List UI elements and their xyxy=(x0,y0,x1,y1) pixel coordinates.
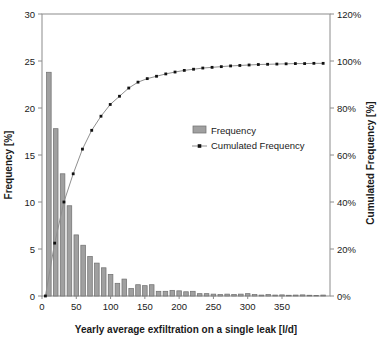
cumulated-frequency-line xyxy=(45,63,323,296)
frequency-bar xyxy=(53,129,58,296)
frequency-bar xyxy=(293,295,298,296)
frequency-bar xyxy=(252,295,257,296)
frequency-bar xyxy=(156,291,161,296)
frequency-bar xyxy=(170,290,175,296)
frequency-bar xyxy=(232,295,237,296)
y-left-tick-label: 15 xyxy=(24,150,35,161)
cumulated-frequency-curve xyxy=(44,62,325,297)
cumulated-frequency-point xyxy=(220,65,223,68)
cumulated-frequency-point xyxy=(192,68,195,71)
cumulated-frequency-point xyxy=(211,66,214,69)
x-tick-label: 50 xyxy=(71,301,82,312)
frequency-bar xyxy=(218,295,223,296)
frequency-bar xyxy=(259,295,264,296)
y-right-tick-label: 60% xyxy=(337,150,357,161)
frequency-bar xyxy=(149,285,154,296)
cumulated-frequency-point xyxy=(238,64,241,67)
cumulated-frequency-point xyxy=(155,75,158,78)
cumulated-frequency-point xyxy=(81,148,84,151)
x-tick-label: 150 xyxy=(137,301,153,312)
frequency-bar xyxy=(74,235,79,296)
y-axis-title-right: Cumulated Frequency [%] xyxy=(365,101,376,224)
frequency-bar xyxy=(280,295,285,296)
cumulated-frequency-point xyxy=(137,81,140,84)
y-left-tick-label: 20 xyxy=(24,103,35,114)
legend-frequency-swatch-icon xyxy=(193,126,206,133)
legend-cumulated-marker-icon xyxy=(198,144,202,148)
cumulated-frequency-point xyxy=(266,63,269,66)
cumulated-frequency-point xyxy=(183,69,186,72)
cumulated-frequency-point xyxy=(275,63,278,66)
cumulated-frequency-point xyxy=(100,115,103,118)
y-right-tick-label: 120% xyxy=(337,9,362,20)
frequency-bar xyxy=(81,245,86,296)
cumulated-frequency-point xyxy=(229,65,232,68)
cumulated-frequency-point xyxy=(118,95,121,98)
cumulated-frequency-point xyxy=(53,242,56,245)
frequency-bar xyxy=(47,72,52,296)
x-axis-title: Yearly average exfiltration on a single … xyxy=(75,324,297,335)
frequency-bar xyxy=(239,294,244,296)
x-tick-label: 100 xyxy=(103,301,119,312)
y-left-tick-label: 10 xyxy=(24,197,35,208)
cumulated-frequency-point xyxy=(201,67,204,70)
frequency-bar xyxy=(266,295,271,296)
frequency-bar xyxy=(307,295,312,296)
y-left-tick-label: 25 xyxy=(24,56,35,67)
y-axis-title-left: Frequency [%] xyxy=(3,131,14,200)
pareto-chart-figure: 0510152025300%20%40%60%80%100%120%050100… xyxy=(0,0,386,356)
frequency-bar xyxy=(122,279,127,296)
y-left-tick-label: 0 xyxy=(30,291,35,302)
frequency-bars xyxy=(47,72,326,296)
legend: Frequency Cumulated Frequency xyxy=(192,125,305,151)
frequency-bar xyxy=(88,257,93,296)
y-right-tick-label: 0% xyxy=(337,291,351,302)
frequency-bar xyxy=(300,295,305,296)
cumulated-frequency-point xyxy=(257,63,260,66)
frequency-bar xyxy=(115,283,120,296)
cumulated-frequency-point xyxy=(294,62,297,65)
x-tick-label: 250 xyxy=(205,301,221,312)
frequency-bar xyxy=(136,285,141,296)
cumulated-frequency-point xyxy=(127,87,130,90)
frequency-bar xyxy=(321,295,326,296)
frequency-bar xyxy=(101,268,106,296)
frequency-bar xyxy=(108,274,113,296)
cumulated-frequency-point xyxy=(63,201,66,204)
frequency-bar xyxy=(245,294,250,296)
frequency-bar xyxy=(191,291,196,296)
cumulated-frequency-point xyxy=(109,103,112,106)
frequency-bar xyxy=(287,295,292,296)
frequency-bar xyxy=(163,291,168,296)
y-left-tick-label: 5 xyxy=(30,244,35,255)
y-right-tick-label: 80% xyxy=(337,103,357,114)
frequency-bar xyxy=(67,206,72,296)
frequency-bar xyxy=(60,174,65,296)
frequency-bar xyxy=(273,295,278,296)
y-right-tick-label: 20% xyxy=(337,244,357,255)
cumulated-frequency-point xyxy=(90,129,93,132)
cumulated-frequency-point xyxy=(146,77,149,80)
cumulated-frequency-point xyxy=(285,62,288,65)
frequency-bar xyxy=(143,286,148,296)
frequency-bar xyxy=(95,263,100,296)
frequency-bar xyxy=(129,288,134,296)
frequency-bar xyxy=(177,291,182,296)
x-tick-label: 200 xyxy=(171,301,187,312)
cumulated-frequency-point xyxy=(303,62,306,65)
frequency-bar xyxy=(314,295,319,296)
chart-canvas: 0510152025300%20%40%60%80%100%120%050100… xyxy=(0,0,386,356)
frequency-bar xyxy=(184,292,189,296)
cumulated-frequency-point xyxy=(174,71,177,74)
legend-cumulated-label: Cumulated Frequency xyxy=(211,140,305,151)
y-right-tick-label: 100% xyxy=(337,56,362,67)
legend-frequency-label: Frequency xyxy=(211,125,256,136)
cumulated-frequency-point xyxy=(248,64,251,67)
x-tick-label: 350 xyxy=(274,301,290,312)
x-tick-label: 300 xyxy=(240,301,256,312)
x-tick-label: 0 xyxy=(39,301,44,312)
cumulated-frequency-point xyxy=(312,62,315,65)
frequency-bar xyxy=(225,294,230,296)
y-left-tick-label: 30 xyxy=(24,9,35,20)
frequency-bar xyxy=(197,294,202,296)
